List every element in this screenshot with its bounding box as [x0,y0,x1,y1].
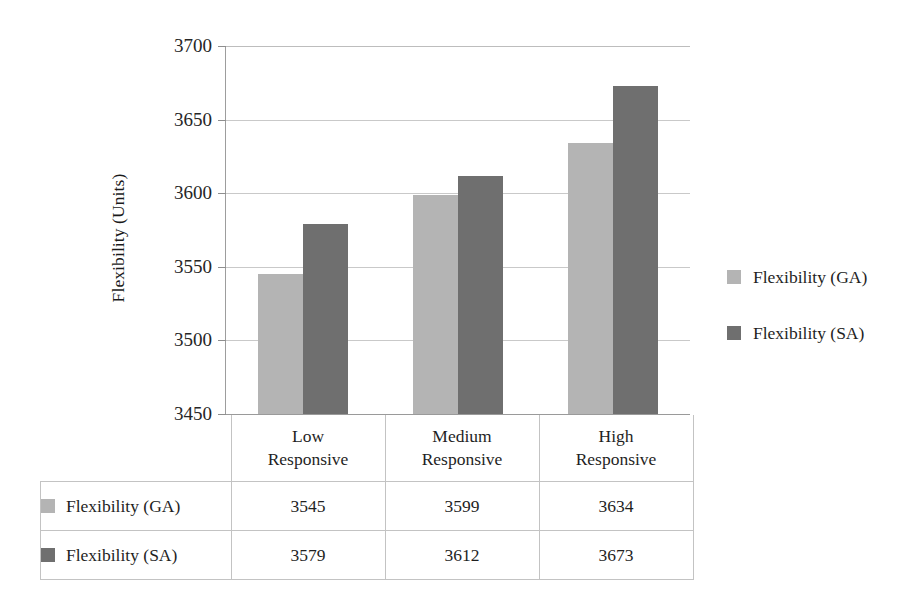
series-swatch-icon [41,499,55,513]
table-row: Flexibility (SA)357936123673 [41,531,694,580]
legend-swatch-icon [727,326,741,340]
y-axis-tick [218,340,226,341]
chart-figure: Flexibility (Units) 37003650360035503500… [0,0,914,606]
y-axis-tick-label: 3600 [142,183,212,202]
data-table: LowResponsiveMediumResponsiveHighRespons… [40,415,694,580]
table-value-cell: 3599 [385,482,539,531]
y-axis-title: Flexibility (Units) [108,108,128,368]
table-column-header-line: Responsive [232,448,385,471]
gridline [225,46,690,47]
y-axis-tick-label: 3550 [142,257,212,276]
bar [303,224,348,414]
y-axis-tick-label: 3650 [142,110,212,129]
y-axis-tick [218,193,226,194]
legend-item-label: Flexibility (GA) [753,268,867,286]
table-corner-cell [41,415,232,482]
legend-item-label: Flexibility (SA) [753,324,864,342]
y-axis-tick [218,46,226,47]
table-series-label: Flexibility (SA) [41,545,231,566]
bar [613,86,658,414]
table-column-header-line: Responsive [386,448,539,471]
table-column-header: HighResponsive [539,415,693,482]
data-table-body: LowResponsiveMediumResponsiveHighRespons… [41,415,694,580]
bar [458,176,503,414]
y-axis-tick [218,414,226,415]
table-header-row: LowResponsiveMediumResponsiveHighRespons… [41,415,694,482]
table-series-label: Flexibility (GA) [41,496,231,517]
table-series-label-cell: Flexibility (SA) [41,531,232,580]
series-name-text: Flexibility (GA) [66,496,180,517]
bar [568,143,613,414]
table-column-header: MediumResponsive [385,415,539,482]
table-value-cell: 3673 [539,531,693,580]
y-axis-tick [218,120,226,121]
plot-area [225,46,690,414]
table-row: Flexibility (GA)354535993634 [41,482,694,531]
legend-item: Flexibility (GA) [727,262,907,292]
series-swatch-icon [41,548,55,562]
legend-swatch-icon [727,270,741,284]
legend-item: Flexibility (SA) [727,318,907,348]
table-value-cell: 3634 [539,482,693,531]
table-value-cell: 3612 [385,531,539,580]
table-value-cell: 3545 [231,482,385,531]
y-axis-tick-label: 3700 [142,36,212,55]
table-column-header-line: High [540,425,693,448]
table-value-cell: 3579 [231,531,385,580]
table-column-header-line: Low [232,425,385,448]
y-axis-tick-label: 3500 [142,330,212,349]
table-column-header: LowResponsive [231,415,385,482]
table-column-header-line: Medium [386,425,539,448]
bar [258,274,303,414]
table-column-header-line: Responsive [540,448,693,471]
table-series-label-cell: Flexibility (GA) [41,482,232,531]
bar [413,195,458,414]
chart-legend: Flexibility (GA)Flexibility (SA) [727,262,907,374]
series-name-text: Flexibility (SA) [66,545,177,566]
y-axis-tick [218,267,226,268]
